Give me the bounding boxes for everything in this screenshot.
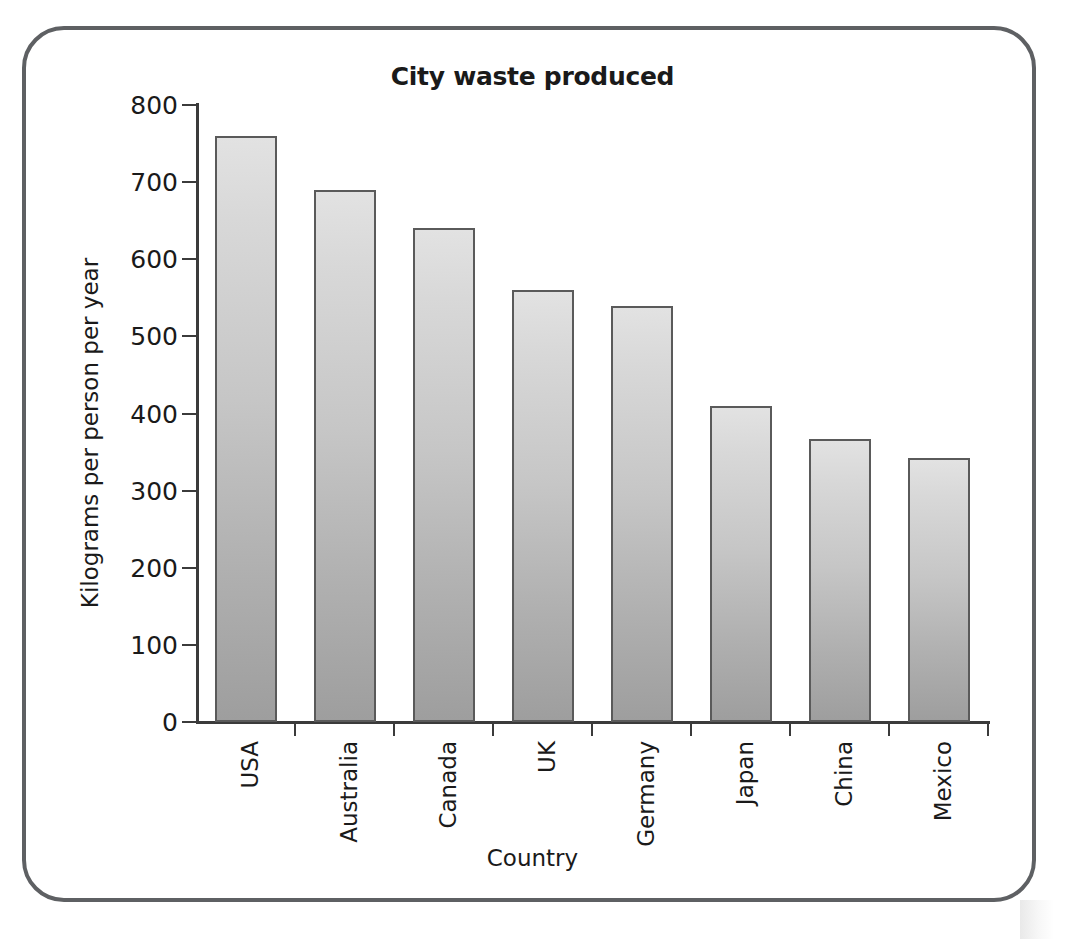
bar-chart: City waste produced Kilograms per person… [0, 0, 1065, 939]
y-axis-tick-label: 200 [88, 553, 178, 582]
y-axis-tick-label: 800 [88, 91, 178, 120]
y-axis-tick-labels: 0100200300400500600700800 [78, 0, 178, 939]
bar [809, 439, 871, 722]
y-axis-tick [182, 567, 196, 569]
x-axis-tick [294, 723, 296, 736]
y-axis-tick [182, 490, 196, 492]
y-axis-tick [182, 413, 196, 415]
x-axis-tick [492, 723, 494, 736]
y-axis-tick-label: 300 [88, 476, 178, 505]
bar [314, 190, 376, 722]
x-axis-title: Country [0, 845, 1065, 871]
y-axis-tick [182, 181, 196, 183]
x-axis-tick-label: Australia [336, 741, 362, 843]
bar [413, 228, 475, 722]
plot-area [196, 105, 988, 722]
x-axis-tick [987, 723, 989, 736]
y-axis-tick [182, 721, 196, 723]
x-axis-tick-label: Germany [633, 741, 659, 847]
bar [215, 136, 277, 722]
bar [611, 306, 673, 722]
bar [512, 290, 574, 722]
x-axis-tick [393, 723, 395, 736]
bar [908, 458, 970, 722]
x-axis-tick-label: Mexico [930, 741, 956, 821]
x-axis-tick [591, 723, 593, 736]
x-axis-tick-label: USA [237, 741, 263, 789]
y-axis-tick [182, 644, 196, 646]
y-axis-tick-label: 600 [88, 245, 178, 274]
x-axis-tick-label: China [831, 741, 857, 807]
y-axis-tick-label: 500 [88, 322, 178, 351]
y-axis-tick-label: 100 [88, 630, 178, 659]
x-axis-tick [888, 723, 890, 736]
y-axis-tick-label: 0 [88, 708, 178, 737]
x-axis-tick-label: Japan [732, 741, 758, 805]
x-axis-tick-label: UK [534, 741, 560, 773]
y-axis-tick-label: 400 [88, 399, 178, 428]
x-axis-tick-label: Canada [435, 741, 461, 829]
y-axis-tick [182, 335, 196, 337]
y-axis-tick-label: 700 [88, 168, 178, 197]
y-axis-tick [182, 104, 196, 106]
x-axis-tick [789, 723, 791, 736]
y-axis-tick [182, 258, 196, 260]
bar [710, 406, 772, 722]
x-axis-tick [690, 723, 692, 736]
